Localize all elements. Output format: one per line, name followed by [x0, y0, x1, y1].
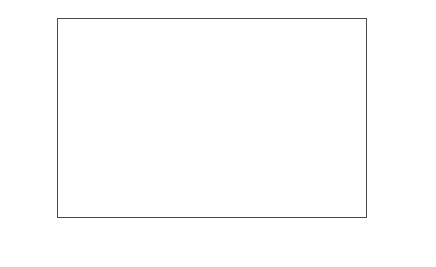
chart-figure [0, 0, 436, 267]
plot-area [57, 18, 367, 218]
